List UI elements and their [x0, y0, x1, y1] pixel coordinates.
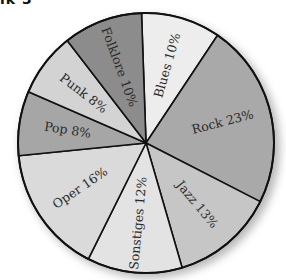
pie-slices [18, 13, 274, 273]
pie-chart: Blues 10%Rock 23%Jazz 13%Sonstiges 12%Op… [0, 0, 286, 280]
